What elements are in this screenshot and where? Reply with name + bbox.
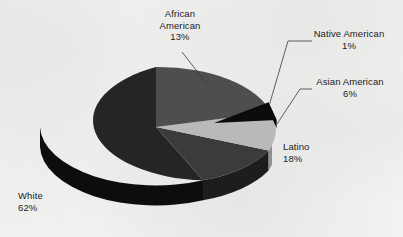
slice-label-african-american-line2: American (134, 20, 226, 32)
slice-value-white: 62% (18, 202, 78, 214)
slice-label-african-american-line1: African (134, 8, 226, 20)
slice-label-asian-american-line1: Asian American (302, 76, 398, 88)
slice-label-native-american-line1: Native American (300, 28, 398, 40)
pie-top-face (93, 67, 276, 180)
slice-value-asian-american: 6% (302, 88, 398, 100)
slice-label-asian-american: Asian American 6% (302, 76, 398, 99)
slice-label-african-american: African American 13% (134, 8, 226, 43)
slice-label-native-american: Native American 1% (300, 28, 398, 51)
slice-label-latino-line1: Latino (283, 141, 343, 153)
slice-value-native-american: 1% (300, 40, 398, 52)
slice-value-latino: 18% (283, 153, 343, 165)
slice-label-white: White 62% (18, 190, 78, 213)
slice-label-white-line1: White (18, 190, 78, 202)
slice-label-latino: Latino 18% (283, 141, 343, 164)
slice-value-african-american: 13% (134, 31, 226, 43)
pie-chart: African American 13% Native American 1% … (0, 0, 403, 237)
